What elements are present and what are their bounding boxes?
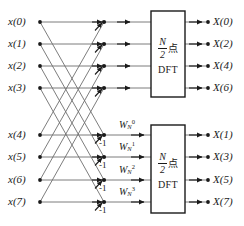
twiddle-label-1: WN1 (119, 141, 135, 153)
output-label-X1: X(1) (213, 129, 233, 140)
dft-upper-unit: 点 (167, 43, 178, 54)
dft-block-lower-text: N 2 点 DFT (151, 152, 185, 190)
dft-upper-denominator: 2 (158, 50, 167, 60)
output-label-X7: X(7) (213, 196, 233, 207)
fft-butterfly-diagram: x(0) x(1) x(2) x(3) x(4) x(5) x(6) x(7) … (0, 0, 244, 226)
input-label-x1: x(1) (8, 38, 26, 49)
input-label-x3: x(3) (8, 82, 26, 93)
input-label-x6: x(6) (8, 174, 26, 185)
twiddle-label-0: WN0 (119, 119, 135, 131)
output-label-X2: X(2) (213, 38, 233, 49)
output-label-X0: X(0) (213, 16, 233, 27)
output-label-X4: X(4) (213, 60, 233, 71)
dft-lower-unit: 点 (167, 158, 178, 169)
output-label-X3: X(3) (213, 151, 233, 162)
dft-upper-numerator: N (158, 37, 167, 47)
twiddle-sup-0: 0 (132, 118, 135, 125)
dft-lower-denominator: 2 (158, 165, 167, 175)
dft-lower-name: DFT (151, 180, 185, 190)
twiddle-sup-3: 3 (132, 185, 135, 192)
twiddle-sup-2: 2 (132, 163, 135, 170)
input-label-x4: x(4) (8, 129, 26, 140)
dft-lower-fraction: N 2 (158, 152, 167, 175)
dft-lower-size-row: N 2 点 (151, 152, 185, 175)
minus-one-label-3: -1 (99, 184, 107, 193)
minus-one-label-2: -1 (99, 161, 107, 170)
dft-block-upper-text: N 2 点 DFT (151, 37, 185, 75)
dft-upper-name: DFT (151, 65, 185, 75)
twiddle-label-2: WN2 (119, 164, 135, 176)
output-label-X5: X(5) (213, 174, 233, 185)
dft-upper-fraction: N 2 (158, 37, 167, 60)
minus-one-label-4: -1 (99, 206, 107, 215)
dft-lower-numerator: N (158, 152, 167, 162)
dft-upper-size-row: N 2 点 (151, 37, 185, 60)
input-label-x5: x(5) (8, 151, 26, 162)
input-label-x0: x(0) (8, 16, 26, 27)
minus-one-label-1: -1 (99, 139, 107, 148)
twiddle-label-3: WN3 (119, 186, 135, 198)
input-label-x7: x(7) (8, 196, 26, 207)
output-label-X6: X(6) (213, 82, 233, 93)
input-label-x2: x(2) (8, 60, 26, 71)
twiddle-sup-1: 1 (132, 140, 135, 147)
